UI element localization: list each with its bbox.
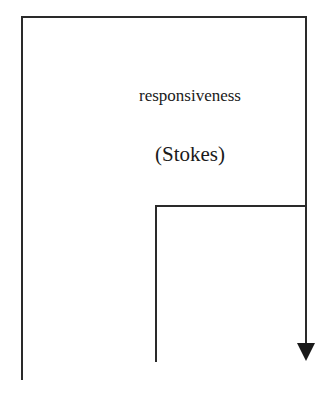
stokes-label: (Stokes) <box>100 142 280 167</box>
responsiveness-label: responsiveness <box>100 86 280 106</box>
diagram-canvas: responsiveness (Stokes) <box>0 0 336 396</box>
down-arrowhead-icon <box>297 343 315 361</box>
diagram-lines <box>0 0 336 396</box>
inner-path-line <box>156 206 306 362</box>
outer-path-line <box>22 17 306 380</box>
